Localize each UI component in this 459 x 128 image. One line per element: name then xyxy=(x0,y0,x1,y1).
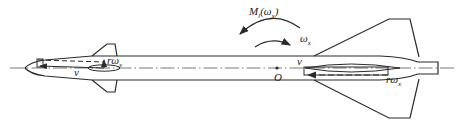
angular-velocity-arrow xyxy=(255,41,290,47)
origin-point xyxy=(275,66,278,69)
rear-tangential-label: rωx xyxy=(386,73,402,88)
missile-diagram: Ml(ωx) ωx O v v rωx rωx xyxy=(0,0,459,128)
forward-fin-bottom xyxy=(92,80,117,92)
origin-label: O xyxy=(274,71,282,83)
velocity-front-label: v xyxy=(74,66,79,78)
front-vector-top xyxy=(38,60,104,62)
velocity-rear-label: v xyxy=(297,55,302,67)
rear-fin-bottom xyxy=(314,79,419,118)
angular-velocity-label: ωx xyxy=(300,32,312,47)
moment-label: Ml(ωx) xyxy=(248,5,279,20)
moment-arrow xyxy=(240,18,300,34)
rear-fin-top xyxy=(314,19,419,57)
